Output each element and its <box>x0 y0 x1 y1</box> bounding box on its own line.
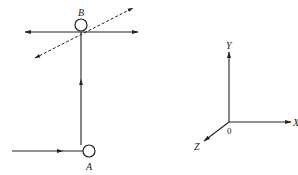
diagram-svg: B A Y X Z 0 <box>0 0 298 175</box>
origin-label: 0 <box>227 126 232 136</box>
z-axis-label: Z <box>194 141 200 152</box>
node-b-circle <box>75 19 87 31</box>
y-axis-label: Y <box>226 40 233 51</box>
z-axis <box>204 122 229 141</box>
diagram-canvas: B A Y X Z 0 <box>0 0 298 175</box>
node-a-circle <box>83 145 95 157</box>
node-a-label: A <box>85 161 93 172</box>
node-b-label: B <box>78 7 84 18</box>
x-axis-label: X <box>292 117 298 128</box>
